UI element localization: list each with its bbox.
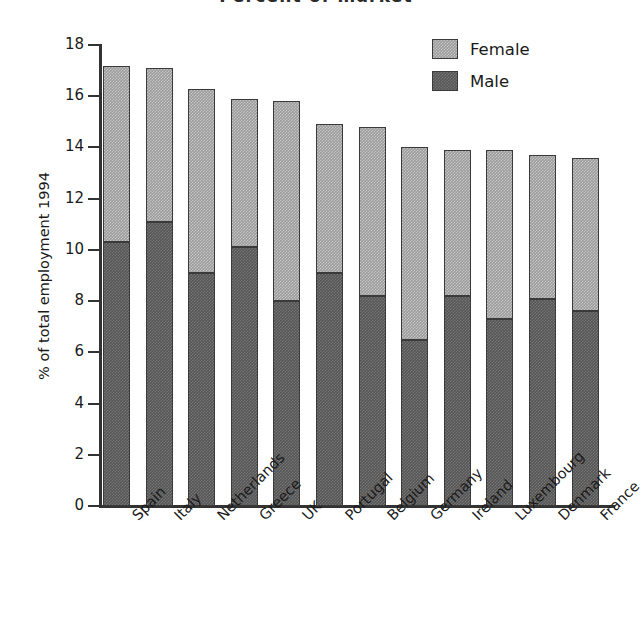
y-axis-tick: [88, 351, 99, 353]
y-axis-tick-label: 2: [44, 447, 84, 462]
bar-group[interactable]: [529, 45, 556, 506]
bar-segment-male[interactable]: [273, 301, 300, 506]
y-axis-tick: [88, 403, 99, 405]
bar-group[interactable]: [359, 45, 386, 506]
bar-group[interactable]: [103, 45, 130, 506]
legend-entry: Female: [432, 33, 582, 65]
y-axis-tick: [88, 198, 99, 200]
bar-segment-female[interactable]: [359, 127, 386, 296]
y-axis-tick: [88, 300, 99, 302]
bar-segment-male[interactable]: [231, 247, 258, 506]
bar-group[interactable]: [444, 45, 471, 506]
bar-group[interactable]: [401, 45, 428, 506]
y-axis-tick-label: 4: [44, 396, 84, 411]
bar-group[interactable]: [188, 45, 215, 506]
bar-segment-male[interactable]: [486, 319, 513, 506]
legend-entry: Male: [432, 65, 582, 97]
bar-segment-female[interactable]: [146, 68, 173, 222]
bar-group[interactable]: [572, 45, 599, 506]
y-axis-tick: [88, 95, 99, 97]
bar-segment-female[interactable]: [401, 147, 428, 339]
y-axis-tick-label: 0: [44, 498, 84, 513]
male-swatch: [432, 71, 458, 91]
bar-segment-male[interactable]: [316, 273, 343, 506]
y-axis-tick-label: 16: [44, 88, 84, 103]
y-axis-tick-label: 18: [44, 37, 84, 52]
y-axis-line: [99, 44, 102, 508]
bar-segment-male[interactable]: [146, 222, 173, 506]
bar-group[interactable]: [273, 45, 300, 506]
female-swatch: [432, 39, 458, 59]
bar-segment-male[interactable]: [188, 273, 215, 506]
bar-segment-female[interactable]: [188, 89, 215, 273]
plot-area: [103, 45, 615, 506]
y-axis-tick-label: 10: [44, 242, 84, 257]
chart-title: Percent of market: [0, 0, 632, 2]
y-axis-tick: [88, 505, 99, 507]
y-axis-tick-label: 12: [44, 191, 84, 206]
bar-segment-female[interactable]: [444, 150, 471, 296]
bar-segment-female[interactable]: [273, 101, 300, 301]
bar-segment-male[interactable]: [103, 242, 130, 506]
chart-legend: FemaleMale: [432, 33, 582, 97]
y-axis-tick-label: 8: [44, 293, 84, 308]
bar-segment-female[interactable]: [103, 66, 130, 243]
y-axis-tick-label: 6: [44, 344, 84, 359]
y-axis-tick: [88, 44, 99, 46]
legend-label: Female: [470, 40, 530, 59]
bar-group[interactable]: [146, 45, 173, 506]
y-axis-tick-label: 14: [44, 139, 84, 154]
legend-label: Male: [470, 72, 509, 91]
bar-segment-female[interactable]: [231, 99, 258, 248]
y-axis-tick: [88, 249, 99, 251]
bar-segment-female[interactable]: [572, 158, 599, 312]
bar-group[interactable]: [231, 45, 258, 506]
bar-segment-female[interactable]: [486, 150, 513, 319]
y-axis-tick: [88, 454, 99, 456]
bar-group[interactable]: [486, 45, 513, 506]
y-axis-tick: [88, 146, 99, 148]
bar-segment-female[interactable]: [529, 155, 556, 298]
bar-segment-female[interactable]: [316, 124, 343, 273]
y-axis-tick-labels: 181614121086420: [40, 0, 84, 631]
bar-group[interactable]: [316, 45, 343, 506]
